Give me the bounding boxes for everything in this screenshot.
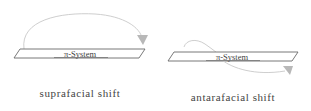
antarafacial-caption: antarafacial shift xyxy=(191,91,275,103)
antarafacial-plane-label: π-System xyxy=(216,52,249,62)
suprafacial-arrowhead-icon xyxy=(137,35,148,45)
antarafacial-arrowhead-icon xyxy=(283,66,293,75)
antarafacial-arrow-path-lower xyxy=(222,60,285,73)
suprafacial-caption: suprafacial shift xyxy=(40,87,121,99)
suprafacial-arrow-path xyxy=(24,14,142,49)
antarafacial-panel: π-System antarafacial shift xyxy=(168,40,298,103)
sigmatropic-shift-diagram: π-System suprafacial shift π-System anta… xyxy=(0,0,311,111)
suprafacial-panel: π-System suprafacial shift xyxy=(14,14,148,99)
suprafacial-plane-label: π-System xyxy=(64,49,97,59)
